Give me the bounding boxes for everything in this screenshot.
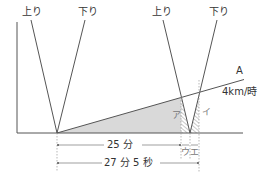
label-region-i: イ xyxy=(202,107,211,117)
label-down-2: 下り xyxy=(209,6,229,17)
down-line-1 xyxy=(57,20,85,133)
label-duration-25: 25 分 xyxy=(107,139,133,150)
diagram-canvas: 上り 下り 上り 下り A 4km/時 ア イ 25 分 27 分 5 秒 ウ … xyxy=(0,0,274,182)
travel-graph-diagram: 上り 下り 上り 下り A 4km/時 ア イ 25 分 27 分 5 秒 ウ … xyxy=(0,0,274,182)
label-speed: 4km/時 xyxy=(222,86,257,97)
label-up-1: 上り xyxy=(22,6,42,17)
up-line-1 xyxy=(31,20,57,133)
label-region-a: ア xyxy=(172,110,181,120)
label-up-2: 上り xyxy=(152,6,172,17)
label-line-a: A xyxy=(236,65,243,76)
label-seg-u: ウ xyxy=(181,147,190,157)
label-duration-27: 27 分 5 秒 xyxy=(104,156,153,168)
label-down-1: 下り xyxy=(78,6,98,17)
label-seg-e: エ xyxy=(190,147,199,157)
